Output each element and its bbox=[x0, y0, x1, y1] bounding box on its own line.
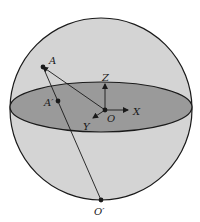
point-a-label: A bbox=[48, 55, 56, 66]
point-o-prime bbox=[99, 198, 104, 203]
point-o-label: O bbox=[107, 113, 115, 124]
point-a-prime-label: A′ bbox=[43, 97, 54, 108]
point-a bbox=[41, 65, 46, 70]
axis-z-label: Z bbox=[101, 72, 110, 83]
point-a-prime bbox=[56, 99, 61, 104]
point-o bbox=[103, 108, 108, 113]
point-o-prime-label: O′ bbox=[94, 206, 105, 217]
axis-x-label: X bbox=[132, 106, 141, 117]
sphere-diagram: ZXY AA′OO′ bbox=[0, 0, 200, 222]
